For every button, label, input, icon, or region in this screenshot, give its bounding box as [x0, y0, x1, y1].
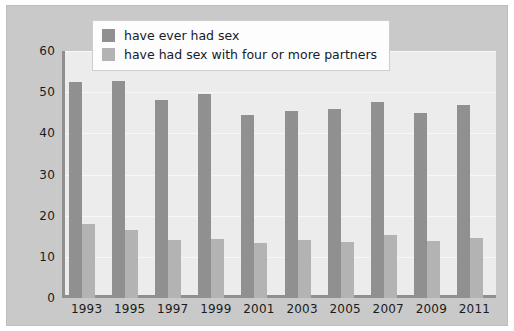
y-axis-tick-label: 10	[7, 250, 55, 264]
legend-label: have had sex with four or more partners	[124, 47, 377, 62]
bar-group	[324, 51, 367, 298]
y-axis-tick-label: 40	[7, 126, 55, 140]
bar-group	[108, 51, 151, 298]
bar	[341, 242, 354, 298]
bar	[241, 115, 254, 298]
bar	[427, 241, 440, 298]
legend-item: have ever had sex	[102, 26, 377, 45]
bar-group	[367, 51, 410, 298]
bar-group	[237, 51, 280, 298]
bar-group	[65, 51, 108, 298]
bar-group	[281, 51, 324, 298]
y-axis-tick-label: 0	[7, 291, 55, 305]
bar	[155, 100, 168, 298]
bar	[285, 111, 298, 298]
x-axis-tick-label: 2011	[449, 302, 499, 316]
bar	[112, 81, 125, 298]
y-axis-tick-label: 50	[7, 85, 55, 99]
y-axis-tick-labels: 0102030405060	[7, 51, 55, 298]
bar	[298, 240, 311, 298]
legend-label: have ever had sex	[124, 28, 239, 43]
y-axis-tick-label: 20	[7, 209, 55, 223]
bar-group	[453, 51, 496, 298]
bar	[328, 109, 341, 298]
bar-group	[410, 51, 453, 298]
bar	[211, 239, 224, 298]
bar	[470, 238, 483, 299]
y-axis-tick-label: 30	[7, 168, 55, 182]
legend-item: have had sex with four or more partners	[102, 45, 377, 64]
legend-swatch-icon	[102, 48, 115, 61]
bar-chart-figure: 0102030405060 19931995199719992001200320…	[6, 5, 508, 326]
bar	[69, 82, 82, 298]
chart-legend: have ever had sexhave had sex with four …	[92, 20, 390, 71]
bar	[82, 224, 95, 298]
bar	[414, 113, 427, 298]
bar-group	[194, 51, 237, 298]
bar	[371, 102, 384, 298]
bars-layer	[65, 51, 496, 298]
bar	[125, 230, 138, 298]
bar	[168, 240, 181, 298]
x-axis-tick-labels: 1993199519971999200120032005200720092011	[65, 302, 496, 324]
bar	[254, 243, 267, 298]
bar	[198, 94, 211, 298]
y-axis-tick-label: 60	[7, 44, 55, 58]
bar	[384, 235, 397, 298]
bar	[457, 105, 470, 298]
legend-swatch-icon	[102, 29, 115, 42]
bar-group	[151, 51, 194, 298]
